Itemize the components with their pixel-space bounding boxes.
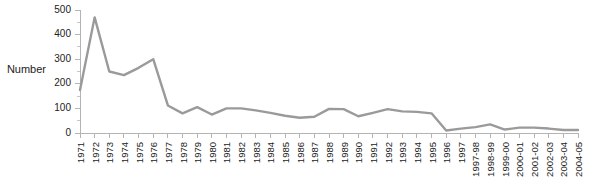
x-tick-label: 1997 xyxy=(456,142,467,163)
x-tick-label: 2002-03 xyxy=(544,142,555,177)
x-tick-label: 1999-00 xyxy=(500,142,511,177)
chart-container: 0100200300400500 Number 1971197219731974… xyxy=(0,0,594,192)
series-group xyxy=(80,17,578,130)
x-tick-label: 1978 xyxy=(178,142,189,163)
data-series-line xyxy=(80,17,578,130)
x-tick-label: 1977 xyxy=(163,142,174,163)
y-tick-label: 200 xyxy=(54,77,71,88)
x-tick-label: 1996 xyxy=(441,142,452,163)
x-tick-label: 1992 xyxy=(383,142,394,163)
x-tick-label: 1997-98 xyxy=(470,142,481,177)
x-tick-label: 1991 xyxy=(368,142,379,163)
x-tick-label: 1993 xyxy=(397,142,408,163)
x-tick-label: 1983 xyxy=(251,142,262,163)
x-tick-label: 1994 xyxy=(412,142,423,163)
y-axis-title: Number xyxy=(7,63,46,75)
x-tick-label: 1984 xyxy=(265,142,276,163)
x-axis-ticks xyxy=(80,133,578,138)
x-tick-label: 1986 xyxy=(295,142,306,163)
x-tick-label: 1985 xyxy=(280,142,291,163)
x-tick-label: 1989 xyxy=(339,142,350,163)
x-axis: 1971197219731974197519761977197819791980… xyxy=(75,133,584,177)
x-tick-label: 1980 xyxy=(207,142,218,163)
x-tick-label: 1998-99 xyxy=(485,142,496,177)
y-tick-label: 400 xyxy=(54,28,71,39)
x-tick-label: 1982 xyxy=(236,142,247,163)
x-tick-label: 2003-04 xyxy=(558,142,569,177)
x-tick-label: 1995 xyxy=(427,142,438,163)
x-tick-label: 1975 xyxy=(134,142,145,163)
y-tick-label: 500 xyxy=(54,4,71,15)
x-axis-tick-labels: 1971197219731974197519761977197819791980… xyxy=(75,142,584,177)
y-tick-label: 300 xyxy=(54,53,71,64)
y-tick-label: 100 xyxy=(54,102,71,113)
y-axis-ticks xyxy=(75,10,80,133)
x-tick-label: 2004-05 xyxy=(573,142,584,177)
x-tick-label: 1987 xyxy=(309,142,320,163)
y-axis: 0100200300400500 Number xyxy=(7,4,80,138)
x-tick-label: 1976 xyxy=(148,142,159,163)
x-tick-label: 1974 xyxy=(119,142,130,163)
x-tick-label: 1972 xyxy=(90,142,101,163)
x-tick-label: 1981 xyxy=(221,142,232,163)
x-tick-label: 2001-02 xyxy=(529,142,540,177)
y-axis-tick-labels: 0100200300400500 xyxy=(54,4,71,138)
x-tick-label: 2000-01 xyxy=(514,142,525,177)
x-tick-label: 1971 xyxy=(75,142,86,163)
x-tick-label: 1979 xyxy=(192,142,203,163)
x-tick-label: 1973 xyxy=(104,142,115,163)
y-tick-label: 0 xyxy=(65,127,71,138)
line-chart: 0100200300400500 Number 1971197219731974… xyxy=(0,0,594,192)
x-tick-label: 1988 xyxy=(324,142,335,163)
x-tick-label: 1990 xyxy=(353,142,364,163)
